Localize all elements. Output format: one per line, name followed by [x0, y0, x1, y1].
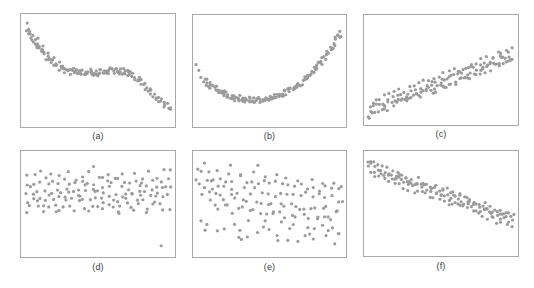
panel-e-scatter: [192, 150, 347, 258]
scatter-plot-figure: (a) (b) (c) (d) (e) (f): [0, 0, 534, 288]
panel-f-scatter: [363, 150, 519, 257]
panel-d: [20, 150, 176, 258]
panel-f-label: (f): [363, 261, 519, 271]
panel-e-label: (e): [192, 262, 347, 272]
panel-b-scatter: [192, 14, 347, 128]
panel-d-label: (d): [20, 262, 176, 272]
panel-c-label: (c): [363, 129, 519, 139]
panel-a: [20, 13, 176, 128]
panel-b: [192, 14, 347, 128]
panel-a-scatter: [20, 13, 176, 128]
panel-e: [192, 150, 347, 258]
panel-b-label: (b): [192, 131, 347, 141]
panel-f: [363, 150, 519, 257]
panel-c-scatter: [363, 14, 519, 126]
panel-a-label: (a): [20, 131, 176, 141]
panel-d-scatter: [20, 150, 176, 258]
panel-c: [363, 14, 519, 126]
